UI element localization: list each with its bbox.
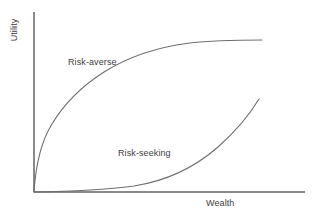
- y-axis-label: Utility: [9, 8, 19, 52]
- risk-averse-label: Risk-averse: [68, 57, 117, 67]
- chart-plot-area: [0, 0, 323, 216]
- x-axis-label: Wealth: [206, 198, 234, 208]
- utility-wealth-chart: Utility Wealth Risk-averse Risk-seeking: [0, 0, 323, 216]
- risk-seeking-label: Risk-seeking: [118, 148, 171, 158]
- risk-seeking-curve: [34, 99, 259, 192]
